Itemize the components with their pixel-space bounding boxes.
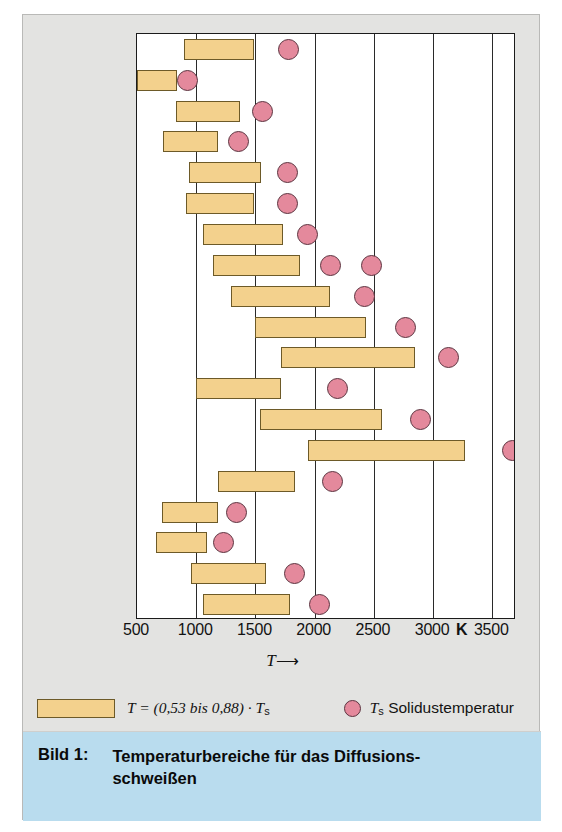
- solidus-marker: [438, 347, 459, 368]
- legend-solidus-label: Ts Solidustemperatur: [370, 699, 514, 717]
- axis-arrow-icon: ⟶: [276, 652, 298, 669]
- axis-title-symbol: T: [266, 651, 275, 670]
- solidus-marker: [297, 224, 318, 245]
- solidus-marker: [320, 255, 341, 276]
- legend-item-range: T = (0,53 bis 0,88) · Ts: [37, 699, 270, 718]
- range-bar: [203, 224, 282, 245]
- solidus-marker: [284, 563, 305, 584]
- x-tick-label: 1500: [237, 621, 272, 639]
- range-bar: [162, 502, 218, 523]
- figure-container: Rostfreier StahlAluminiumBerylliumKupfer…: [22, 14, 540, 820]
- solidus-marker: [278, 39, 299, 60]
- x-tick-label: 1000: [178, 621, 213, 639]
- solidus-marker: [322, 471, 343, 492]
- x-axis-unit: K: [456, 621, 468, 639]
- range-bar: [191, 563, 266, 584]
- range-bar: [137, 70, 177, 91]
- solidus-marker: [252, 101, 273, 122]
- x-tick-label: 500: [123, 621, 149, 639]
- x-tick-label: 3000: [415, 621, 450, 639]
- range-bar: [260, 409, 382, 430]
- solidus-marker: [327, 378, 348, 399]
- solidus-marker: [213, 532, 234, 553]
- solidus-marker: [277, 193, 298, 214]
- range-bar: [281, 347, 415, 368]
- range-bar: [189, 162, 261, 183]
- range-bar: [163, 131, 217, 152]
- x-axis-title: T⟶: [23, 651, 541, 671]
- range-bar: [203, 594, 289, 615]
- solidus-marker: [226, 502, 247, 523]
- legend: T = (0,53 bis 0,88) · Ts Ts Solidustempe…: [23, 687, 541, 729]
- solidus-marker: [277, 162, 298, 183]
- x-axis-tick-labels: 500100015002000250030003500K: [136, 621, 515, 645]
- solidus-marker: [354, 286, 375, 307]
- caption-band: Bild 1: Temperaturbereiche für das Diffu…: [23, 731, 541, 821]
- range-bar: [156, 532, 207, 553]
- solidus-marker: [361, 255, 382, 276]
- range-bar: [308, 440, 466, 461]
- range-bar: [255, 317, 365, 338]
- gridline: [433, 34, 434, 618]
- solidus-marker: [228, 131, 249, 152]
- solidus-marker: [502, 440, 515, 461]
- bar-swatch-icon: [37, 699, 115, 718]
- legend-item-solidus: Ts Solidustemperatur: [270, 699, 514, 717]
- solidus-marker: [410, 409, 431, 430]
- caption-number: Bild 1:: [38, 745, 88, 821]
- solidus-marker: [309, 594, 330, 615]
- gridline: [492, 34, 493, 618]
- solidus-marker: [395, 317, 416, 338]
- range-bar: [186, 193, 255, 214]
- range-bar: [218, 471, 295, 492]
- plot-area: Rostfreier StahlAluminiumBerylliumKupfer…: [23, 15, 541, 619]
- x-tick-label: 2000: [296, 621, 331, 639]
- x-tick-label: 3500: [474, 621, 509, 639]
- range-bar: [184, 39, 254, 60]
- range-bar: [176, 101, 240, 122]
- legend-range-label: T = (0,53 bis 0,88) · Ts: [127, 699, 270, 717]
- plot-frame: [136, 33, 515, 619]
- gridline: [196, 34, 197, 618]
- range-bar: [231, 286, 330, 307]
- range-bar: [196, 378, 281, 399]
- caption-title: Temperaturbereiche für das Diffusions- s…: [112, 745, 492, 821]
- gridline: [374, 34, 375, 618]
- x-tick-label: 2500: [355, 621, 390, 639]
- solidus-dot-icon: [344, 700, 361, 717]
- range-bar: [213, 255, 301, 276]
